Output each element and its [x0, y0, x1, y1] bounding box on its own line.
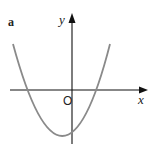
y-axis-arrow-icon	[69, 13, 76, 23]
origin-label: O	[63, 94, 72, 108]
graph: a y O x	[0, 0, 151, 144]
part-label: a	[8, 15, 14, 29]
y-axis-label: y	[57, 12, 65, 27]
x-axis-label: x	[137, 92, 144, 107]
